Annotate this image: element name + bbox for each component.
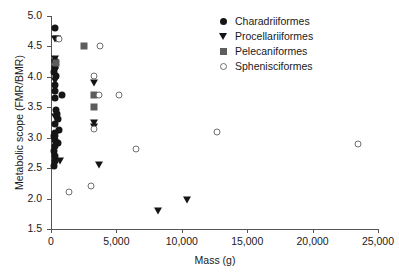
data-point <box>95 162 103 169</box>
marker-circle-open <box>97 43 104 50</box>
marker-triangle-down <box>51 135 59 142</box>
data-point <box>87 183 94 190</box>
data-point <box>355 141 362 148</box>
x-tick-label: 0 <box>21 236 81 247</box>
x-axis-line <box>51 229 379 230</box>
marker-circle-open <box>91 126 98 133</box>
x-tick-mark <box>116 229 117 233</box>
marker-circle-open <box>116 92 123 99</box>
marker-circle-open <box>220 63 227 70</box>
data-point <box>66 189 73 196</box>
marker-circle-open <box>214 128 221 135</box>
marker-triangle-down <box>90 79 98 86</box>
data-point <box>116 92 123 99</box>
marker-triangle-down <box>51 114 59 121</box>
marker-circle-open <box>96 92 103 99</box>
marker-circle-filled <box>220 18 227 25</box>
data-point <box>91 104 98 111</box>
legend-swatch <box>216 48 230 55</box>
marker-triangle-down <box>56 157 64 164</box>
data-point <box>96 92 103 99</box>
marker-circle-open <box>133 145 140 152</box>
chart-legend: CharadriiformesProcellariiformesPelecani… <box>216 14 381 74</box>
data-point <box>51 77 59 84</box>
legend-item-charadriiformes: Charadriiformes <box>216 14 381 28</box>
legend-swatch <box>216 63 230 70</box>
marker-square-filled <box>220 48 227 55</box>
data-point <box>214 128 221 135</box>
legend-item-sphenisciformes: Sphenisciformes <box>216 59 381 73</box>
legend-swatch <box>216 33 230 40</box>
legend-item-procellariiformes: Procellariiformes <box>216 29 381 43</box>
data-point <box>90 72 97 79</box>
data-point <box>91 126 98 133</box>
marker-square-filled <box>53 60 60 67</box>
marker-triangle-down <box>219 33 227 40</box>
x-tick-label: 25,000 <box>348 236 399 247</box>
legend-swatch <box>216 18 230 25</box>
y-axis-title: Metabolic scope (FMR/BMR) <box>13 16 26 229</box>
data-point <box>51 114 59 121</box>
marker-triangle-down <box>51 77 59 84</box>
x-tick-label: 20,000 <box>283 236 343 247</box>
data-point <box>59 91 66 98</box>
data-point <box>133 145 140 152</box>
x-tick-label: 10,000 <box>152 236 212 247</box>
legend-label: Charadriiformes <box>235 15 310 27</box>
marker-circle-open <box>90 72 97 79</box>
legend-label: Procellariiformes <box>235 30 313 42</box>
marker-circle-open <box>66 189 73 196</box>
marker-circle-filled <box>52 25 59 32</box>
legend-item-pelecaniformes: Pelecaniformes <box>216 44 381 58</box>
marker-triangle-down <box>95 162 103 169</box>
marker-square-filled <box>80 43 87 50</box>
marker-triangle-down <box>51 67 59 74</box>
data-point <box>51 135 59 142</box>
x-tick-label: 5,000 <box>86 236 146 247</box>
data-point <box>51 67 59 74</box>
x-tick-mark <box>51 229 52 233</box>
marker-circle-filled <box>59 91 66 98</box>
data-point <box>154 207 162 214</box>
marker-triangle-down <box>183 196 191 203</box>
x-tick-mark <box>182 229 183 233</box>
data-point <box>56 36 63 43</box>
legend-label: Sphenisciformes <box>235 60 313 72</box>
data-point <box>90 79 98 86</box>
data-point <box>51 94 58 101</box>
marker-circle-open <box>56 36 63 43</box>
marker-circle-open <box>87 183 94 190</box>
data-point <box>183 196 191 203</box>
data-point <box>56 157 64 164</box>
marker-circle-open <box>355 141 362 148</box>
data-point <box>80 43 87 50</box>
data-point <box>53 60 60 67</box>
legend-label: Pelecaniformes <box>235 45 307 57</box>
x-tick-mark <box>313 229 314 233</box>
x-axis-title: Mass (g) <box>51 254 379 266</box>
data-point <box>52 25 59 32</box>
marker-circle-filled <box>51 94 58 101</box>
data-point <box>97 43 104 50</box>
x-tick-mark <box>378 229 379 233</box>
x-tick-mark <box>247 229 248 233</box>
x-tick-label: 15,000 <box>217 236 277 247</box>
marker-square-filled <box>91 104 98 111</box>
marker-triangle-down <box>154 207 162 214</box>
